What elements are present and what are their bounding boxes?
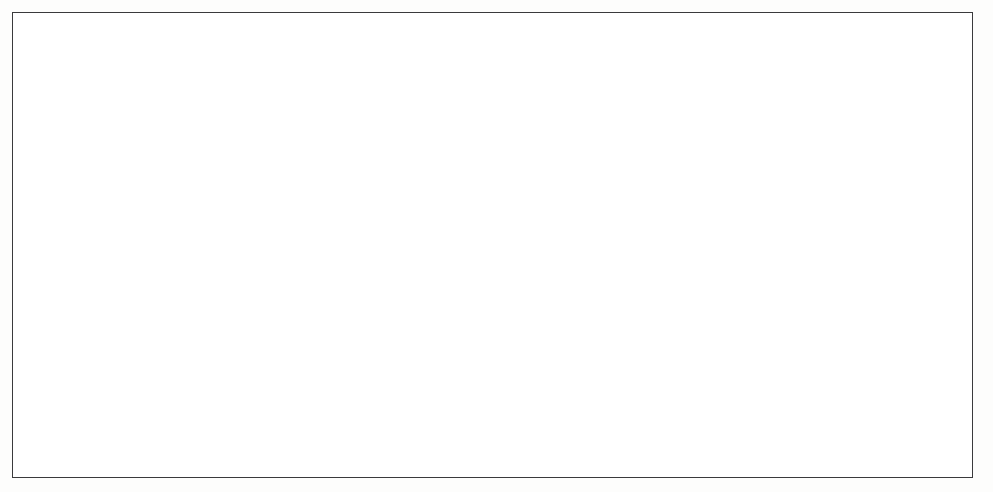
chart-page (0, 0, 993, 492)
figure-border (12, 12, 973, 478)
